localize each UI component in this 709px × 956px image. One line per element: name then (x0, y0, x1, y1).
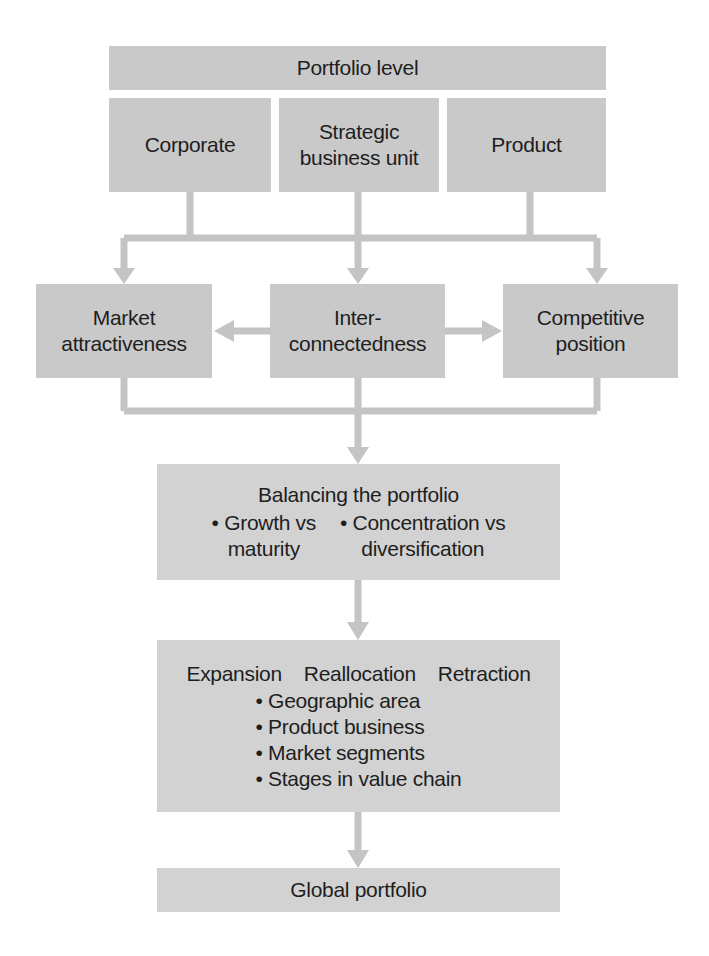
sbu-label-line2: business unit (300, 145, 419, 171)
heading-expansion: Expansion (186, 661, 281, 687)
balancing-item-line2: maturity (212, 536, 316, 562)
list-item: • Stages in value chain (256, 766, 462, 792)
competitive-position-box: Competitive position (503, 284, 678, 378)
interconnectedness-box: Inter- connectedness (270, 284, 445, 378)
inter-label-line2: connectedness (289, 331, 426, 357)
portfolio-level-box: Portfolio level (109, 46, 606, 90)
market-attractiveness-box: Market attractiveness (36, 284, 212, 378)
balancing-item: • Concentration vs diversification (340, 510, 505, 562)
balancing-item: • Growth vs maturity (212, 510, 316, 562)
global-portfolio-label: Global portfolio (290, 877, 426, 903)
market-label-line2: attractiveness (61, 331, 186, 357)
corporate-box: Corporate (109, 98, 271, 192)
action-headings: Expansion Reallocation Retraction (186, 661, 530, 687)
heading-retraction: Retraction (438, 661, 531, 687)
corporate-label: Corporate (145, 132, 236, 158)
global-portfolio-box: Global portfolio (157, 868, 560, 912)
market-label-line1: Market (93, 305, 155, 331)
sbu-label-line1: Strategic (319, 119, 399, 145)
product-label: Product (491, 132, 561, 158)
inter-label-line1: Inter- (334, 305, 381, 331)
heading-reallocation: Reallocation (304, 661, 416, 687)
product-box: Product (447, 98, 606, 192)
competitive-label-line2: position (556, 331, 626, 357)
competitive-label-line1: Competitive (537, 305, 645, 331)
list-item: • Market segments (256, 740, 462, 766)
balancing-portfolio-box: Balancing the portfolio • Growth vs matu… (157, 464, 560, 580)
portfolio-level-label: Portfolio level (297, 55, 419, 81)
strategic-business-unit-box: Strategic business unit (279, 98, 439, 192)
action-dimensions-list: • Geographic area • Product business • M… (256, 688, 462, 792)
balancing-items: • Growth vs maturity • Concentration vs … (212, 510, 506, 562)
portfolio-actions-box: Expansion Reallocation Retraction • Geog… (157, 640, 560, 812)
balancing-title: Balancing the portfolio (258, 482, 459, 508)
balancing-item-line1: • Growth vs (212, 510, 316, 536)
list-item: • Geographic area (256, 688, 462, 714)
list-item: • Product business (256, 714, 462, 740)
balancing-item-line2: diversification (340, 536, 505, 562)
balancing-item-line1: • Concentration vs (340, 510, 505, 536)
